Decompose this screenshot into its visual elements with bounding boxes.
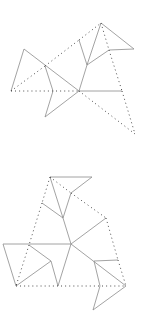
dotted-edge <box>101 23 109 50</box>
dotted-edge <box>16 245 29 286</box>
dotted-edge <box>79 91 135 134</box>
solid-edge <box>71 218 106 244</box>
bottom-net <box>3 177 126 310</box>
dotted-edge <box>71 193 106 218</box>
polyhedron-nets-diagram <box>0 0 151 312</box>
solid-edge <box>51 261 58 286</box>
dotted-edge <box>79 23 101 40</box>
dotted-edge <box>11 66 45 91</box>
dotted-edge <box>45 40 79 66</box>
solid-edge <box>63 193 71 218</box>
solid-edge <box>87 50 109 65</box>
solid-edge <box>93 286 100 310</box>
dotted-edge <box>42 177 50 203</box>
solid-edge <box>79 65 87 91</box>
solid-edge <box>29 245 51 261</box>
dotted-edge <box>118 260 126 286</box>
solid-edge <box>11 49 24 91</box>
dotted-edge <box>106 218 118 260</box>
solid-edge <box>94 260 118 261</box>
top-net <box>11 23 135 134</box>
solid-edge <box>50 177 63 218</box>
solid-edge <box>3 244 16 286</box>
solid-edge <box>45 91 79 117</box>
solid-edge <box>94 261 100 286</box>
dotted-edge <box>122 91 135 134</box>
solid-edge <box>45 91 53 117</box>
solid-edge <box>24 49 79 91</box>
solid-edge <box>16 261 51 286</box>
solid-edge <box>63 218 71 244</box>
dotted-edge <box>50 177 71 193</box>
solid-edge <box>101 23 134 49</box>
solid-edge <box>109 49 134 50</box>
solid-edge <box>42 203 63 218</box>
solid-edge <box>87 23 101 65</box>
solid-edge <box>71 177 92 193</box>
dotted-edge <box>109 50 122 91</box>
dotted-edge <box>29 203 42 245</box>
solid-edge <box>58 244 71 286</box>
solid-edge <box>79 40 87 65</box>
solid-edge <box>93 286 126 310</box>
